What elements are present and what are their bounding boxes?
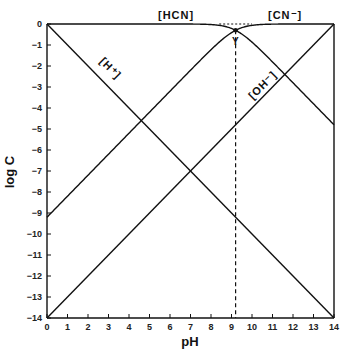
label-hcn: [HCN] [158, 9, 194, 21]
system-point-marker: Y [232, 36, 240, 47]
cn-curve [47, 24, 334, 217]
x-tick-label: 13 [308, 322, 318, 332]
x-tick-label: 14 [329, 322, 339, 332]
x-tick-label: 4 [126, 322, 131, 332]
y-tick-label: −5 [32, 124, 42, 134]
x-tick-label: 10 [247, 322, 257, 332]
y-tick-label: −6 [32, 145, 42, 155]
y-tick-label: −8 [32, 187, 42, 197]
x-tick-label: 5 [147, 322, 152, 332]
label-cn: [CN⁻] [268, 9, 302, 21]
x-tick-label: 3 [106, 322, 111, 332]
x-tick-label: 6 [167, 322, 172, 332]
hcn-curve [47, 24, 334, 125]
y-tick-label: −3 [32, 82, 42, 92]
x-tick-label: 9 [229, 322, 234, 332]
system-point [233, 28, 237, 32]
x-tick-label: 1 [65, 322, 70, 332]
y-tick-label: −9 [32, 208, 42, 218]
y-tick-label: −14 [27, 313, 42, 323]
x-tick-label: 11 [268, 322, 278, 332]
y-tick-label: −7 [32, 166, 42, 176]
log-c-ph-diagram: 012345678910111213140−1−2−3−4−5−6−7−8−9−… [0, 0, 346, 352]
y-tick-label: 0 [37, 19, 42, 29]
y-tick-label: −11 [27, 250, 42, 260]
curves [47, 24, 334, 318]
x-tick-label: 2 [85, 322, 90, 332]
y-tick-label: −12 [27, 271, 42, 281]
annotations [219, 24, 252, 318]
y-tick-label: −4 [32, 103, 42, 113]
x-tick-label: 7 [188, 322, 193, 332]
y-tick-label: −13 [27, 292, 42, 302]
x-tick-label: 12 [288, 322, 298, 332]
x-tick-label: 8 [208, 322, 213, 332]
x-axis-title: pH [181, 334, 198, 349]
y-tick-label: −1 [32, 40, 42, 50]
x-tick-label: 0 [44, 322, 49, 332]
y-tick-label: −10 [27, 229, 42, 239]
y-axis-title: log C [2, 155, 17, 188]
y-tick-label: −2 [32, 61, 42, 71]
label-h: [H⁺] [98, 55, 124, 81]
